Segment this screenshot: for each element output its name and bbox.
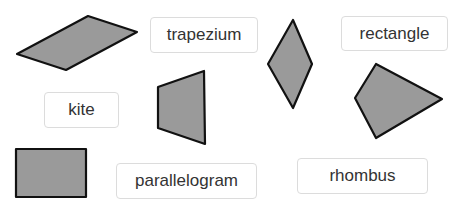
rectangle-shape[interactable] — [16, 149, 86, 197]
label-trapezium[interactable]: trapezium — [150, 17, 258, 53]
label-kite[interactable]: kite — [44, 92, 119, 128]
label-rhombus[interactable]: rhombus — [297, 158, 428, 194]
kite-shape[interactable] — [355, 64, 442, 138]
rhombus-shape[interactable] — [268, 20, 312, 108]
label-parallelogram[interactable]: parallelogram — [116, 163, 257, 199]
trapezium-shape[interactable] — [158, 71, 205, 144]
parallelogram-shape[interactable] — [17, 16, 137, 70]
label-rectangle[interactable]: rectangle — [341, 16, 448, 51]
